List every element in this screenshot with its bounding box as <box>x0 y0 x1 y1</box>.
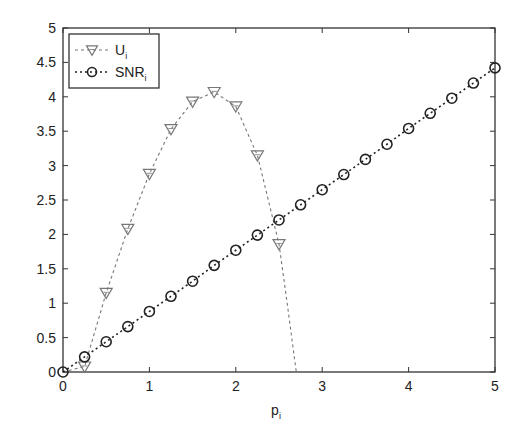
series-layer <box>58 63 500 377</box>
series-snr <box>58 63 500 377</box>
y-tick-label: 2 <box>48 226 56 242</box>
x-tick-label: 4 <box>405 378 413 394</box>
x-axis-label-sub: i <box>279 411 281 421</box>
series-u <box>63 87 296 372</box>
x-tick-label: 2 <box>232 378 240 394</box>
x-tick-label: 0 <box>59 378 67 394</box>
x-tick-label: 1 <box>146 378 154 394</box>
series-line <box>63 68 495 372</box>
triangle-down-marker <box>143 169 155 179</box>
y-tick-label: 5 <box>48 20 56 36</box>
legend: UiSNRi <box>69 34 159 88</box>
x-axis-label: pi <box>271 402 281 421</box>
circle-marker <box>123 322 133 332</box>
circle-marker <box>425 108 435 118</box>
circle-marker <box>360 154 370 164</box>
x-axis-label-main: p <box>271 402 279 418</box>
chart: 01234500.511.522.533.544.55 UiSNRi pi <box>0 0 523 436</box>
triangle-down-marker <box>122 224 134 234</box>
circle-marker <box>188 276 198 286</box>
y-tick-label: 1.5 <box>37 261 57 277</box>
triangle-down-marker <box>208 87 220 97</box>
circle-marker <box>101 337 111 347</box>
y-tick-label: 2.5 <box>37 192 57 208</box>
y-tick-label: 3.5 <box>37 123 57 139</box>
triangle-down-marker <box>165 125 177 135</box>
circle-marker <box>274 215 284 225</box>
circle-marker <box>252 230 262 240</box>
y-tick-label: 4.5 <box>37 54 57 70</box>
y-tick-label: 0 <box>48 364 56 380</box>
y-tick-label: 0.5 <box>37 330 57 346</box>
x-tick-label: 5 <box>491 378 499 394</box>
y-tick-label: 1 <box>48 295 56 311</box>
triangle-down-marker <box>251 151 263 161</box>
circle-marker <box>339 170 349 180</box>
triangle-down-marker <box>187 97 199 107</box>
y-tick-label: 3 <box>48 158 56 174</box>
circle-marker <box>404 123 414 133</box>
x-tick-label: 3 <box>318 378 326 394</box>
y-tick-label: 4 <box>48 89 56 105</box>
